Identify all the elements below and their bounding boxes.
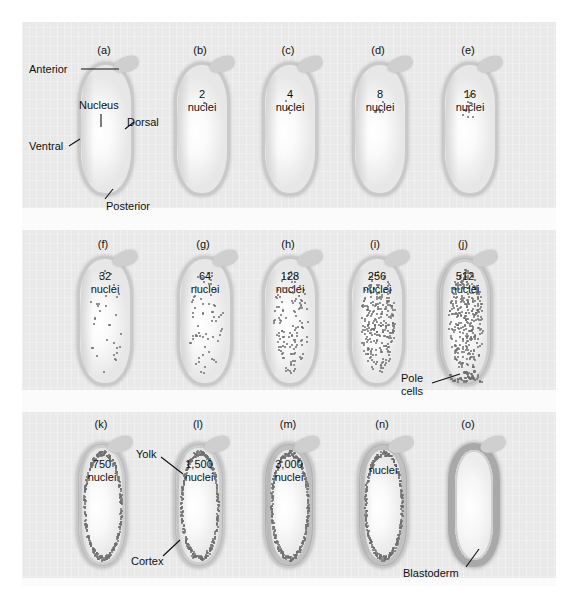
leader-blastoderm <box>0 0 578 607</box>
figure-root: (a) (b) (c) (d) (e) (f) (g) (h) (i) (j) … <box>0 0 578 607</box>
